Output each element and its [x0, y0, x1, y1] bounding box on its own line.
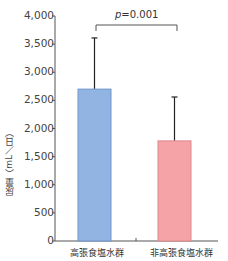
y-tick-label: 0: [47, 235, 54, 246]
y-tick-label: 3,000: [24, 66, 54, 77]
p-value-label: p=0.001: [115, 9, 158, 20]
x-label-hypertonic: 高張食塩水群: [63, 246, 131, 259]
y-tick-label: 2,500: [24, 94, 54, 105]
y-tick-label: 1,500: [24, 151, 54, 162]
y-tick-label: 1,000: [24, 179, 54, 190]
bar-hypertonic-saline: [78, 89, 111, 241]
y-axis-label: 尿量（mL／日）: [2, 128, 24, 196]
x-label-non-hypertonic: 非高張食塩水群: [144, 246, 218, 259]
y-tick-label: 3,500: [24, 38, 54, 49]
y-tick-label: 500: [34, 207, 54, 218]
y-tick-label: 2,000: [24, 123, 54, 134]
bar-non-hypertonic-saline: [158, 141, 191, 241]
y-tick-label: 4,000: [24, 10, 54, 21]
significance-bracket: [96, 25, 177, 31]
